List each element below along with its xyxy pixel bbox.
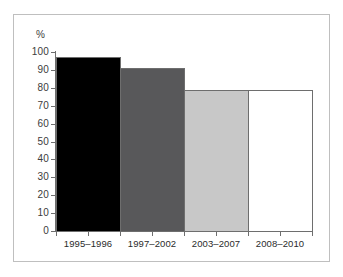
y-axis-tick-label: 0	[43, 226, 49, 236]
y-axis-tick	[51, 124, 55, 125]
y-axis-tick-label: 80	[37, 83, 49, 93]
y-axis-tick	[51, 231, 55, 232]
chart-figure: % 0102030405060708090100 1995–19961997–2…	[0, 0, 343, 277]
bar	[56, 57, 121, 232]
y-axis-tick-label: 40	[37, 154, 49, 164]
y-axis-tick-label: 70	[37, 101, 49, 111]
y-axis-tick	[51, 213, 55, 214]
y-axis-tick	[51, 177, 55, 178]
bar	[248, 90, 313, 232]
y-axis-tick-label: 50	[37, 137, 49, 147]
y-axis-tick	[51, 52, 55, 53]
bar	[120, 68, 185, 232]
y-axis-tick	[51, 70, 55, 71]
x-axis-tick	[152, 232, 153, 236]
x-axis-tick	[88, 232, 89, 236]
x-axis-tick	[216, 232, 217, 236]
x-axis-category-label: 2003–2007	[184, 238, 248, 249]
bar	[184, 90, 249, 232]
x-axis-tick	[280, 232, 281, 236]
x-axis-tick	[184, 232, 185, 236]
x-axis-category-label: 2008–2010	[248, 238, 312, 249]
x-axis-tick	[56, 232, 57, 236]
y-axis-tick-label: 90	[37, 65, 49, 75]
x-axis-tick	[248, 232, 249, 236]
y-axis-tick-label: 30	[37, 172, 49, 182]
y-axis-tick	[51, 142, 55, 143]
y-axis-unit-label: %	[36, 30, 45, 40]
y-axis-tick-label: 60	[37, 119, 49, 129]
y-axis-tick-label: 100	[32, 47, 49, 57]
x-axis-tick	[120, 232, 121, 236]
x-axis-category-label: 1995–1996	[56, 238, 120, 249]
y-axis-tick	[51, 88, 55, 89]
y-axis-tick-label: 10	[37, 208, 49, 218]
y-axis-tick-label: 20	[37, 190, 49, 200]
x-axis-tick	[312, 232, 313, 236]
y-axis-tick	[51, 106, 55, 107]
y-axis-tick	[51, 159, 55, 160]
x-axis-category-label: 1997–2002	[120, 238, 184, 249]
y-axis-tick	[51, 195, 55, 196]
